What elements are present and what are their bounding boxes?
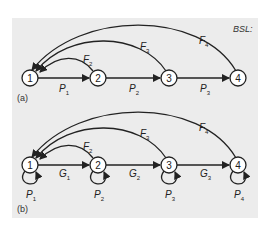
edge-f4-a [32,25,236,71]
edge-label: F4 [199,35,209,48]
panel-a: 1 2 3 4 P1 P2 P3 F2 F3 F4 (a) [17,25,246,103]
title-label: BSL: [233,24,253,34]
edge-f3-b [36,128,166,158]
node-label: 4 [235,160,241,171]
node-label: 1 [27,73,33,84]
edge-label: F4 [199,122,209,135]
edge-label: P2 [94,189,105,202]
edge-label: P3 [165,189,176,202]
edge-label: P4 [234,189,245,202]
node-label: 4 [235,73,241,84]
node-label: 2 [95,160,101,171]
node-label: 1 [27,160,33,171]
edge-label: P2 [129,83,140,96]
edge-label: G3 [200,168,212,181]
edge-label: P3 [200,83,211,96]
panel-b-label: (b) [17,204,28,214]
state-diagram: BSL: 1 2 3 4 P1 P2 P3 F2 F3 F4 (a) [0,0,271,227]
panel-b: 1 2 3 4 G1 G2 G3 F2 F3 F4 P1 P2 P3 P4 (b… [17,112,246,214]
edge-f4-b [32,112,236,158]
edge-label: G1 [59,168,71,181]
edge-label: G2 [129,168,141,181]
edge-label: P1 [26,189,37,202]
edge-f3-a [36,41,166,71]
node-label: 2 [95,73,101,84]
edge-label: P1 [59,83,70,96]
node-label: 3 [166,160,172,171]
node-label: 3 [166,73,172,84]
panel-a-label: (a) [17,93,28,103]
